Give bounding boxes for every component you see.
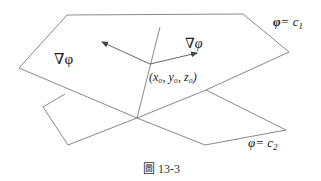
grad-varphi-arrow: [150, 53, 197, 64]
point-label: (x₀, y₀, z₀): [149, 70, 197, 84]
diagram-canvas: ∇φ ∇φ (x₀, y₀, z₀) φ= c1 φ= c2 圖13-3: [0, 0, 321, 181]
caption-prefix: 圖: [143, 162, 155, 176]
surface-2-back-edge: [137, 118, 286, 130]
grad-phi-arrow: [102, 42, 150, 64]
figure-caption: 圖13-3: [143, 162, 180, 176]
grad-phi-label: ∇φ: [54, 51, 73, 67]
caption-number: 13-3: [158, 162, 180, 176]
surface-1-label: φ= c1: [273, 14, 303, 31]
grad-varphi-label: ∇φ: [185, 36, 203, 51]
surface-2-label: φ= c2: [248, 135, 278, 152]
